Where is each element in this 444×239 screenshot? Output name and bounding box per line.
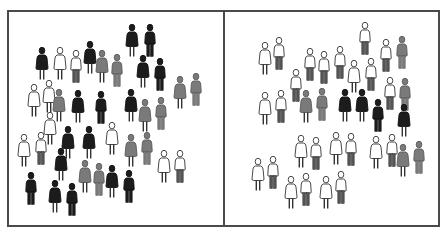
person-white-dress-icon xyxy=(284,176,298,210)
panel-label: Right group xyxy=(225,12,226,13)
person-white-pants-icon xyxy=(364,58,378,92)
person-gray-pants-icon xyxy=(189,73,203,107)
person-white-pants-icon xyxy=(69,50,83,84)
person-white-pants-icon xyxy=(303,48,317,82)
person-black-dress-icon xyxy=(136,55,150,89)
person-black-pants-icon xyxy=(122,170,136,204)
person-gray-pants-icon xyxy=(110,54,124,88)
person-white-pants-icon xyxy=(344,133,358,167)
person-white-pants-icon xyxy=(383,77,397,111)
person-gray-dress-icon xyxy=(299,90,313,124)
person-gray-pants-icon xyxy=(395,36,409,70)
person-white-pants-icon xyxy=(309,137,323,171)
person-white-pants-icon xyxy=(34,132,48,166)
person-white-pants-icon xyxy=(333,46,347,80)
person-black-pants-icon xyxy=(65,183,79,217)
person-black-dress-icon xyxy=(124,89,138,123)
person-black-dress-icon xyxy=(54,148,68,182)
panel-label: Left group xyxy=(9,12,10,13)
person-gray-dress-icon xyxy=(396,144,410,178)
person-gray-dress-icon xyxy=(173,76,187,110)
person-black-dress-icon xyxy=(397,104,411,138)
person-black-dress-icon xyxy=(125,24,139,58)
person-white-dress-icon xyxy=(258,42,272,76)
person-white-pants-icon xyxy=(274,90,288,124)
person-gray-pants-icon xyxy=(412,141,426,175)
person-black-dress-icon xyxy=(35,47,49,81)
person-white-pants-icon xyxy=(358,22,372,56)
person-white-dress-icon xyxy=(258,92,272,126)
person-white-dress-icon xyxy=(369,136,383,170)
person-gray-dress-icon xyxy=(124,134,138,168)
figure-caption: Two groups of people: left group mixed b… xyxy=(0,0,1,1)
person-white-dress-icon xyxy=(329,132,343,166)
person-white-pants-icon xyxy=(379,39,393,73)
person-white-dress-icon xyxy=(294,135,308,169)
person-white-pants-icon xyxy=(317,51,331,85)
person-white-dress-icon xyxy=(319,176,333,210)
person-white-pants-icon xyxy=(272,37,286,71)
person-black-pants-icon xyxy=(94,91,108,125)
person-white-pants-icon xyxy=(334,171,348,205)
person-white-pants-icon xyxy=(173,150,187,184)
person-white-dress-icon xyxy=(53,47,67,81)
person-gray-pants-icon xyxy=(315,88,329,122)
person-black-pants-icon xyxy=(153,58,167,92)
person-white-dress-icon xyxy=(157,150,171,184)
person-black-dress-icon xyxy=(355,89,369,123)
person-gray-pants-icon xyxy=(92,163,106,197)
person-black-dress-icon xyxy=(48,180,62,214)
person-gray-dress-icon xyxy=(138,99,152,133)
person-white-dress-icon xyxy=(251,158,265,192)
person-white-pants-icon xyxy=(299,173,313,207)
person-white-pants-icon xyxy=(266,156,280,190)
person-gray-pants-icon xyxy=(140,132,154,166)
person-gray-dress-icon xyxy=(78,160,92,194)
person-black-pants-icon xyxy=(143,24,157,58)
person-black-dress-icon xyxy=(71,90,85,124)
person-gray-dress-icon xyxy=(95,50,109,84)
person-gray-pants-icon xyxy=(154,97,168,131)
person-black-dress-icon xyxy=(82,126,96,160)
person-white-dress-icon xyxy=(105,122,119,156)
person-black-dress-icon xyxy=(338,89,352,123)
person-white-dress-icon xyxy=(27,84,41,118)
person-black-dress-icon xyxy=(105,165,119,199)
person-white-dress-icon xyxy=(17,134,31,168)
person-black-pants-icon xyxy=(24,172,38,206)
